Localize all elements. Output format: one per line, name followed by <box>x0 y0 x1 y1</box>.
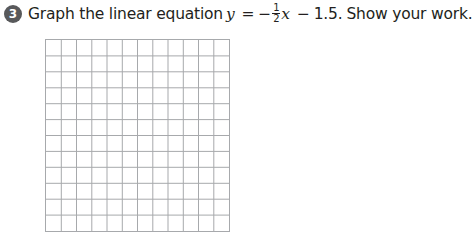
question-suffix: Show your work. <box>346 5 472 23</box>
equals-sign: = <box>242 5 255 23</box>
fraction-denominator: 2 <box>273 14 279 24</box>
question-number-badge: 3 <box>4 5 22 23</box>
question-prefix: Graph the linear equation <box>28 5 223 23</box>
fraction: 1 2 <box>272 3 280 24</box>
question-prompt: 3 Graph the linear equation y = − 1 2 x … <box>4 3 472 24</box>
minus-sign: − <box>258 5 271 23</box>
graph-grid[interactable] <box>45 39 230 232</box>
equation-lhs: y <box>226 5 235 23</box>
equation-variable: x <box>281 5 290 23</box>
grid-lines <box>46 40 231 233</box>
equation-constant: 1.5. <box>314 5 343 23</box>
minus-sign-2: − <box>297 5 310 23</box>
question-text: Graph the linear equation y = − 1 2 x − … <box>28 3 472 24</box>
